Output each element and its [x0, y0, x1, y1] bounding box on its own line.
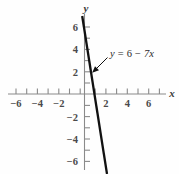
x-tick-label: 6 — [146, 98, 151, 109]
coordinate-plane-svg: −6 −4 −2 2 4 6 6 4 2 −2 −4 −6 y x — [0, 0, 179, 174]
x-tick-label: 4 — [125, 98, 131, 109]
graph-figure: −6 −4 −2 2 4 6 6 4 2 −2 −4 −6 y x y = 6 … — [0, 0, 179, 174]
y-tick-label: 6 — [73, 22, 78, 33]
y-tick-label: 4 — [73, 44, 79, 55]
y-tick-label: −4 — [67, 134, 79, 145]
y-axis-label: y — [82, 2, 89, 14]
x-tick-label: 2 — [103, 98, 108, 109]
equation-annotation: y = 6 − 7x — [110, 48, 154, 59]
x-tick-label: −2 — [53, 98, 64, 109]
y-tick-label: −6 — [67, 156, 78, 167]
x-axis-ticks — [16, 89, 159, 95]
y-tick-label: −2 — [67, 112, 78, 123]
y-tick-label: 2 — [73, 67, 78, 78]
x-axis-label: x — [168, 87, 175, 99]
x-tick-label: −6 — [10, 98, 21, 109]
equation-arrow — [92, 58, 107, 73]
equation-slope-term: 7x — [144, 48, 154, 59]
x-tick-label: −4 — [32, 98, 44, 109]
